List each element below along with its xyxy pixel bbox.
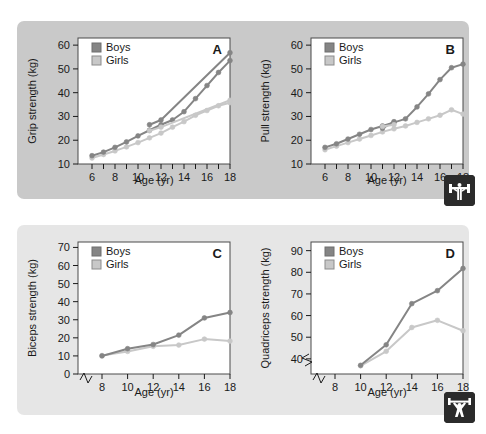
y-tick-label: 30 [58,110,70,122]
data-point-boys [193,96,198,101]
data-point-boys [358,363,363,368]
x-tick-label: 10 [354,381,366,393]
y-tick-label: 30 [291,110,303,122]
legend-label-girls: Girls [339,258,362,270]
data-point-boys [409,301,414,306]
data-point-boys [357,132,362,137]
legend-swatch-girls [325,260,334,269]
x-tick-label: 16 [201,171,213,183]
x-axis-title: Age (yr) [134,174,173,186]
y-tick-label: 10 [291,158,303,170]
data-point-boys [216,70,221,75]
x-tick-label: 8 [112,171,118,183]
panel-letter: B [446,42,455,57]
data-point-boys [113,145,118,150]
legend-label-boys: Boys [106,41,131,53]
x-tick-label: 10 [121,381,133,393]
data-point-girls [409,325,414,330]
data-point-boys [426,91,431,96]
y-tick-label: 40 [58,87,70,99]
y-tick-label: 20 [58,134,70,146]
chart-panel-d: 40506070809081012141618Quadriceps streng… [255,228,470,412]
data-point-girls [228,339,233,344]
legend-label-boys: Boys [339,245,364,257]
data-point-overlap-girls [159,125,164,130]
x-tick-label: 6 [322,171,328,183]
x-tick-label: 14 [411,171,423,183]
data-point-boys [461,62,466,67]
data-point-boys [228,310,233,315]
panel-letter: D [446,246,455,261]
y-axis-title: Pull strength (kg) [259,59,271,142]
y-tick-label: 70 [58,241,70,253]
data-point-boys [125,346,130,351]
data-point-overlap-girls [147,128,152,133]
legend-label-boys: Boys [106,245,131,257]
legend-label-girls: Girls [106,258,129,270]
x-tick-label: 18 [224,171,236,183]
data-point-boys [346,137,351,142]
x-tick-label: 14 [178,171,190,183]
data-point-boys [384,342,389,347]
x-axis-title: Age (yr) [367,386,406,398]
data-point-boys [124,139,129,144]
x-tick-label: 16 [198,381,210,393]
y-tick-label: 40 [291,87,303,99]
y-tick-label: 50 [58,63,70,75]
legend-swatch-boys [325,43,334,52]
x-tick-label: 8 [99,381,105,393]
data-point-girls [170,125,175,130]
data-point-girls [147,135,152,140]
legend-swatch-boys [325,247,334,256]
x-axis-title: Age (yr) [134,386,173,398]
x-tick-label: 14 [406,381,418,393]
y-tick-label: 70 [291,288,303,300]
data-point-girls [461,112,466,117]
x-tick-label: 18 [224,381,236,393]
data-point-girls [369,133,374,138]
data-point-boys [136,134,141,139]
x-tick-label: 16 [431,381,443,393]
data-point-boys [369,127,374,132]
data-point-boys [151,342,156,347]
legend-label-boys: Boys [339,41,364,53]
data-point-overlap-girls [392,122,397,127]
data-point-girls [124,144,129,149]
y-tick-label: 60 [291,310,303,322]
data-point-overlap-girls [380,124,385,129]
y-axis-title: Biceps strength (kg) [26,259,38,357]
legend-swatch-girls [325,56,334,65]
chart-panel-b: 102030405060681012141618Pull strength (k… [255,24,470,196]
data-point-overlap-boys [228,50,233,55]
y-tick-label: 10 [58,350,70,362]
data-point-boys [449,65,454,70]
legend-swatch-girls [92,56,101,65]
data-point-overlap-girls [228,98,233,103]
data-point-girls [449,107,454,112]
y-tick-label: 60 [58,260,70,272]
chart-a: 102030405060681012141618Grip strength (k… [22,24,237,196]
y-tick-label: 40 [58,296,70,308]
y-tick-label: 60 [58,39,70,51]
y-tick-label: 0 [64,368,70,380]
legend-label-girls: Girls [106,54,129,66]
legend-label-girls: Girls [339,54,362,66]
data-point-boys [334,141,339,146]
panel-letter: C [213,246,223,261]
x-tick-label: 6 [89,171,95,183]
bench-press-icon [444,175,475,206]
data-point-boys [323,145,328,150]
legend-swatch-boys [92,247,101,256]
data-point-girls [357,137,362,142]
data-point-boys [182,109,187,114]
data-point-girls [415,120,420,125]
y-tick-label: 90 [291,245,303,257]
strength-by-age-figure: 102030405060681012141618Grip strength (k… [0,0,486,434]
data-point-boys [205,83,210,88]
data-point-boys [101,150,106,155]
x-tick-label: 8 [345,171,351,183]
chart-d: 40506070809081012141618Quadriceps streng… [255,228,470,412]
chart-b: 102030405060681012141618Pull strength (k… [255,24,470,196]
data-point-boys [100,354,105,359]
data-point-girls [384,349,389,354]
